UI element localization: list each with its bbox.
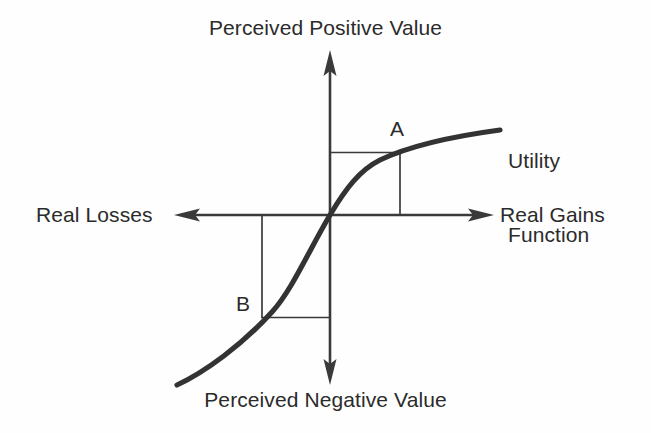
y-axis-negative-label: Perceived Negative Value (0, 388, 651, 413)
point-a-label: A (390, 117, 404, 142)
point-b-label: B (236, 292, 250, 317)
utility-function-legend-line2: Function (508, 223, 589, 248)
y-axis-positive-label: Perceived Positive Value (0, 16, 651, 41)
x-axis-losses-label: Real Losses (36, 203, 153, 228)
utility-function-legend-line1: Utility (508, 149, 589, 174)
utility-function-curve (177, 130, 500, 385)
utility-function-legend-label: Utility Function (508, 99, 589, 297)
utility-function-figure: Perceived Positive Value Perceived Negat… (0, 0, 651, 433)
